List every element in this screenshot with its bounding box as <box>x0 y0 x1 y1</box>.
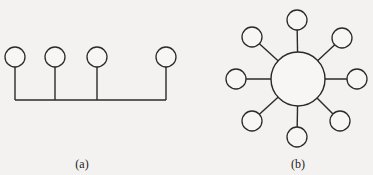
star-node <box>287 10 307 30</box>
star-node <box>242 27 262 47</box>
bus-node <box>87 47 107 67</box>
star-node <box>287 127 307 147</box>
star-node <box>332 28 352 48</box>
network-topology-figure: (a) (b) <box>0 0 373 175</box>
topology-drawing <box>0 0 373 175</box>
star-node <box>226 69 246 89</box>
bus-node <box>156 47 176 67</box>
caption-star: (b) <box>291 157 305 172</box>
star-node <box>330 111 350 131</box>
bus-node <box>5 47 25 67</box>
caption-bus: (a) <box>75 157 88 172</box>
star-node <box>347 69 367 89</box>
star-hub-node <box>271 52 325 106</box>
star-node <box>242 111 262 131</box>
bus-node <box>45 47 65 67</box>
